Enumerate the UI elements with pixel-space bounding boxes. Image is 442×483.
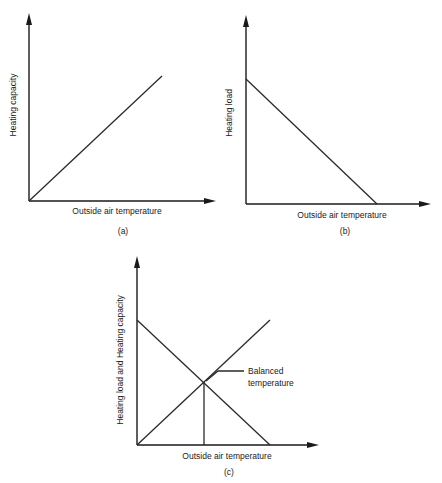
panel-a-capacity-line xyxy=(29,76,162,201)
panel-b-load-line xyxy=(246,79,377,204)
panel-a-y-axis-arrow-icon xyxy=(26,13,32,25)
panel-a: Heating capacity Outside air temperature… xyxy=(8,13,216,236)
panel-a-y-label: Heating capacity xyxy=(8,73,18,137)
panel-c-annotation-leader xyxy=(206,371,244,381)
panel-c: Balanced temperature Heating load and He… xyxy=(115,256,319,477)
panel-c-y-axis-arrow-icon xyxy=(134,256,140,268)
panel-c-annotation-line2: temperature xyxy=(248,378,294,388)
panel-b: Heating load Outside air temperature (b) xyxy=(224,15,431,236)
panel-c-caption: (c) xyxy=(224,467,234,477)
diagram-canvas: Heating capacity Outside air temperature… xyxy=(0,0,442,483)
panel-b-x-label: Outside air temperature xyxy=(297,210,387,220)
panel-c-annotation-line1: Balanced xyxy=(248,366,284,376)
panel-a-caption: (a) xyxy=(118,226,129,236)
panel-c-x-label: Outside air temperature xyxy=(182,451,272,461)
panel-c-x-axis-arrow-icon xyxy=(307,442,319,448)
panel-b-x-axis-arrow-icon xyxy=(419,201,431,207)
panel-b-y-label: Heating load xyxy=(224,89,234,137)
panel-c-y-label: Heating load and Heating capacity xyxy=(115,295,125,425)
panel-a-x-label: Outside air temperature xyxy=(72,206,162,216)
panel-b-y-axis-arrow-icon xyxy=(243,15,249,27)
panel-b-caption: (b) xyxy=(340,226,351,236)
panel-a-x-axis-arrow-icon xyxy=(204,198,216,204)
